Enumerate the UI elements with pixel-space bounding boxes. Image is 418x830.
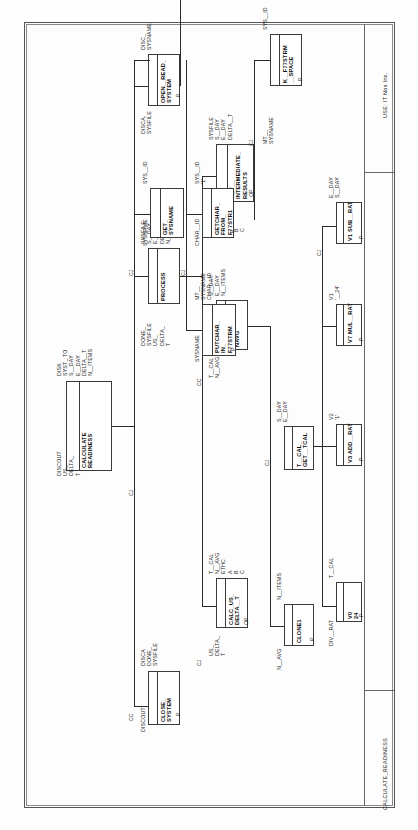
connector-label-layer: CJ CC CC CJ CJ CJ	[30, 26, 364, 804]
connector-label-cj-calc: CJ	[197, 660, 203, 666]
connector-label-cj-tcal: CJ	[265, 460, 271, 466]
title-block	[364, 24, 394, 806]
title-block-rule-top	[364, 172, 394, 173]
connector-label-cc-2: CC	[197, 378, 203, 386]
connector-label-cj-root: CJ	[129, 490, 135, 496]
connector-label-cc-1: CC	[129, 713, 135, 721]
title-block-company: USE: IT Nos Inc.	[382, 72, 388, 118]
connector-label-cj-arith: CJ	[317, 250, 323, 256]
title-block-rule-bottom	[364, 690, 394, 691]
title-block-drawing-name: CALCULATE_READINESS	[382, 738, 388, 810]
drawing-sheet: USE: IT Nos Inc. CALCULATE_READINESS	[0, 0, 418, 830]
